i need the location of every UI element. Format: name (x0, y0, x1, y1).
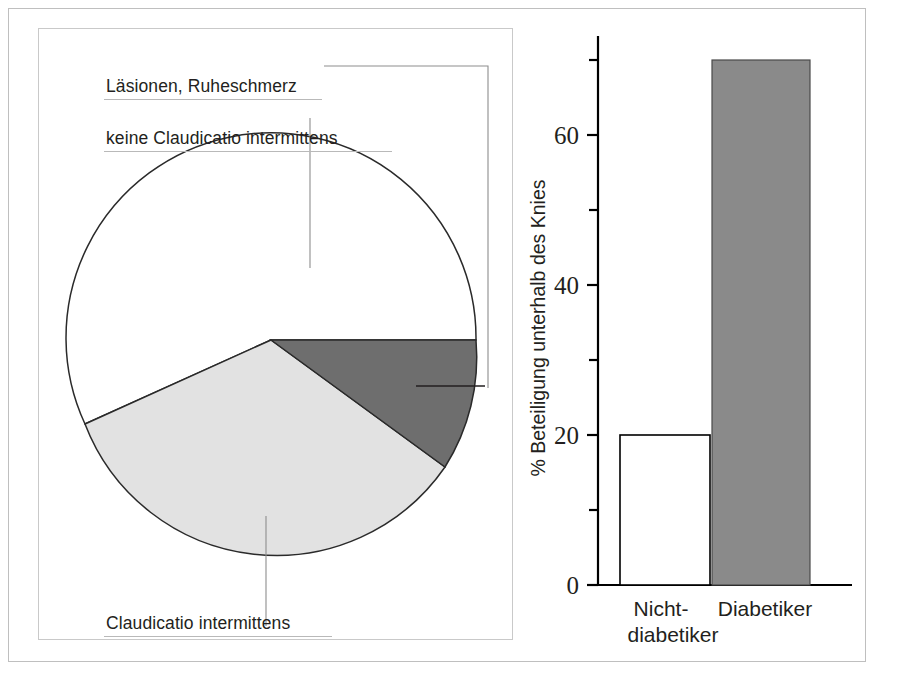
bar-tick-label-0: 0 (567, 572, 580, 599)
pie-label-keine-claudicatio: keine Claudicatio intermittens (104, 128, 392, 152)
bar-tick-label-40: 40 (554, 272, 579, 299)
bar-tick-label-20: 20 (554, 422, 579, 449)
pie-label-lesionen-underline (104, 99, 322, 100)
pie-chart-panel: Läsionen, Ruheschmerz keine Claudicatio … (38, 28, 518, 643)
figure-root: Läsionen, Ruheschmerz keine Claudicatio … (0, 0, 899, 696)
pie-label-keine-claudicatio-underline (104, 151, 392, 152)
pie-label-keine-claudicatio-text: keine Claudicatio intermittens (104, 128, 392, 151)
pie-label-lesionen-text: Läsionen, Ruheschmerz (104, 76, 322, 99)
bar-chart-svg: 0 20 40 60 Nicht- diabetiker Diabetiker … (525, 28, 870, 643)
pie-chart-svg (38, 28, 518, 643)
bar-category-label-nichtdiabetiker-line2: diabetiker (627, 623, 718, 643)
pie-label-claudicatio-underline (104, 636, 332, 637)
bar-diabetiker (712, 60, 810, 585)
pie-label-lesionen: Läsionen, Ruheschmerz (104, 76, 322, 100)
pie-label-claudicatio-text: Claudicatio intermittens (104, 613, 332, 636)
bar-y-axis-title: % Beteiligung unterhalb des Knies (527, 179, 549, 476)
bar-category-label-diabetiker: Diabetiker (718, 597, 813, 620)
bar-chart-panel: 0 20 40 60 Nicht- diabetiker Diabetiker … (525, 28, 870, 643)
bar-nichtdiabetiker (620, 435, 710, 585)
pie-label-claudicatio: Claudicatio intermittens (104, 613, 332, 637)
bar-tick-label-60: 60 (554, 122, 579, 149)
bar-category-label-nichtdiabetiker-line1: Nicht- (634, 597, 689, 620)
